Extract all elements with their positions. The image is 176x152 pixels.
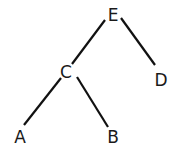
nodes: E C D A B	[14, 5, 167, 147]
edge-c-b	[77, 77, 108, 127]
node-b: B	[107, 127, 119, 147]
edge-e-d	[121, 18, 155, 65]
edges	[24, 18, 155, 127]
edge-e-c	[72, 20, 105, 64]
node-a: A	[14, 127, 26, 147]
node-c: C	[60, 62, 72, 82]
node-d: D	[154, 70, 167, 90]
node-e: E	[108, 5, 119, 25]
tree-diagram: E C D A B	[0, 0, 176, 152]
edge-c-a	[24, 78, 61, 125]
